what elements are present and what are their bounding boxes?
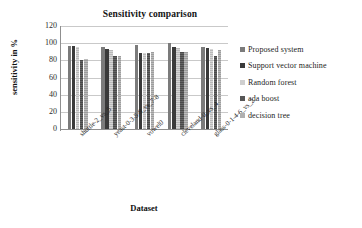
legend-label: decision tree xyxy=(248,111,290,120)
y-tick-label: 120 xyxy=(45,22,57,30)
bar[interactable] xyxy=(76,47,79,129)
legend-swatch-icon xyxy=(240,63,245,68)
bar[interactable] xyxy=(168,43,171,129)
legend-label: Random forest xyxy=(248,78,297,87)
y-tick-label: 60 xyxy=(49,74,57,82)
bar[interactable] xyxy=(218,50,221,129)
y-axis-title: sensitivity in % xyxy=(9,27,19,107)
y-tick-label: 100 xyxy=(45,39,57,47)
x-axis-title: Dataset xyxy=(60,203,228,213)
chart-legend: Proposed systemSupport vector machineRan… xyxy=(240,41,362,124)
bar[interactable] xyxy=(72,46,75,129)
bar[interactable] xyxy=(147,53,150,129)
bar[interactable] xyxy=(151,52,154,129)
bar[interactable] xyxy=(184,52,187,129)
bar[interactable] xyxy=(68,46,71,129)
chart-title: Sensitivity comparison xyxy=(60,9,240,19)
y-axis-tick-labels: 020406080100120 xyxy=(30,26,57,130)
legend-swatch-icon xyxy=(240,80,245,85)
bar[interactable] xyxy=(84,59,87,129)
legend-swatch-icon xyxy=(240,47,245,52)
chart-container: Sensitivity comparison sensitivity in % … xyxy=(0,0,362,228)
bar[interactable] xyxy=(80,60,83,129)
legend-label: Proposed system xyxy=(248,45,304,54)
bar-group xyxy=(161,26,194,129)
y-tick-label: 20 xyxy=(49,108,57,116)
legend-item[interactable]: Random forest xyxy=(240,74,362,91)
bar[interactable] xyxy=(176,48,179,129)
bar[interactable] xyxy=(172,47,175,129)
bar[interactable] xyxy=(113,56,116,129)
legend-label: ada boost xyxy=(248,94,279,103)
bar-group xyxy=(61,26,94,129)
bar[interactable] xyxy=(109,50,112,129)
bar[interactable] xyxy=(118,56,121,129)
legend-swatch-icon xyxy=(240,113,245,118)
legend-item[interactable]: ada boost xyxy=(240,91,362,108)
y-tick-label: 80 xyxy=(49,56,57,64)
legend-item[interactable]: decision tree xyxy=(240,107,362,124)
legend-item[interactable]: Proposed system xyxy=(240,41,362,58)
bar[interactable] xyxy=(143,53,146,129)
x-axis-category-labels: shuttle-2_vs_5yeast-0-3-5-9_vs_7-8vowel0… xyxy=(0,130,238,192)
bar[interactable] xyxy=(214,56,217,129)
bar[interactable] xyxy=(180,52,183,129)
legend-item[interactable]: Support vector machine xyxy=(240,58,362,75)
bar[interactable] xyxy=(210,49,213,129)
y-tick-label: 40 xyxy=(49,91,57,99)
legend-swatch-icon xyxy=(240,96,245,101)
legend-label: Support vector machine xyxy=(248,61,327,70)
